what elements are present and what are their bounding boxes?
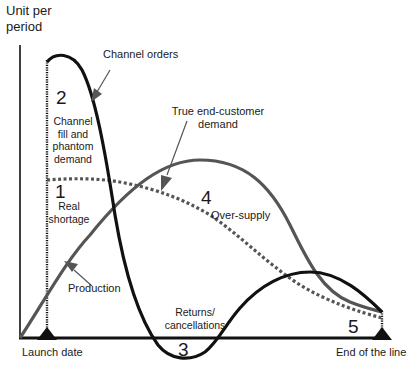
y-axis-title-line1: Unit per [6, 3, 52, 19]
region-4-number: 4 [201, 188, 212, 207]
product-lifecycle-diagram: Unit per period Channel orders True end-… [0, 0, 411, 377]
region-2-number: 2 [56, 88, 67, 107]
region-2-label-line4: demand [50, 153, 96, 166]
region-3-label-line2: cancellations [160, 319, 230, 332]
launch-date-label: Launch date [22, 346, 83, 359]
region-5-number: 5 [348, 317, 359, 336]
region-4-label: Over-supply [211, 209, 270, 222]
true-demand-label: True end-customer demand [148, 105, 288, 131]
end-of-line-label: End of the line [336, 346, 406, 359]
region-2-label-line1: Channel [50, 115, 96, 128]
launch-date-triangle-icon [37, 327, 57, 340]
y-axis-title: Unit per period [6, 3, 52, 35]
region-2-label: Channel fill and phantom demand [50, 115, 96, 165]
region-3-label-line1: Returns/ [160, 306, 230, 319]
region-1-label: Real shortage [47, 200, 91, 225]
dotted-demand-curve [47, 179, 382, 318]
y-axis-title-line2: period [6, 19, 52, 35]
true-demand-label-line2: demand [148, 118, 288, 131]
production-label: Production [68, 282, 121, 295]
channel-orders-label: Channel orders [103, 48, 178, 61]
region-1-number: 1 [55, 182, 66, 201]
end-of-line-triangle-icon [372, 327, 392, 340]
channel-orders-arrowhead-icon [91, 88, 102, 102]
region-2-label-line2: fill and [50, 128, 96, 141]
true-demand-arrowhead-icon [161, 175, 172, 191]
region-3-label: Returns/ cancellations [160, 306, 230, 331]
region-1-label-line1: Real [47, 200, 91, 213]
region-3-number: 3 [178, 340, 189, 359]
region-1-label-line2: shortage [47, 213, 91, 226]
channel-orders-arrow-line [97, 70, 110, 92]
region-2-label-line3: phantom [50, 140, 96, 153]
true-demand-label-line1: True end-customer [148, 105, 288, 118]
